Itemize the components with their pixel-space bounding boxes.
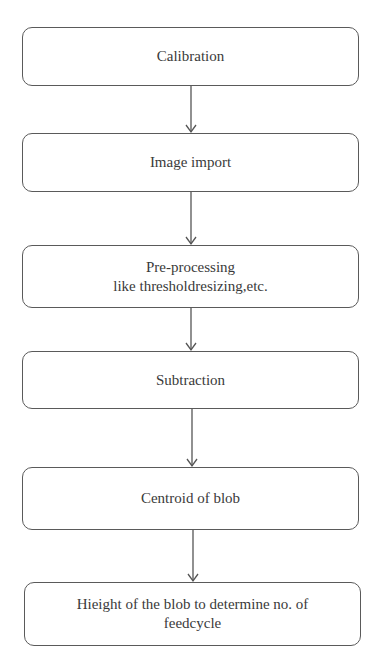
step-centroid-of-blob: Centroid of blob bbox=[22, 467, 359, 530]
step-subtraction: Subtraction bbox=[22, 351, 359, 409]
step-label: Image import bbox=[150, 153, 231, 172]
step-pre-processing: Pre-processing like thresholdresizing,et… bbox=[22, 245, 359, 308]
step-label: Centroid of blob bbox=[141, 489, 240, 508]
step-label-line-2: feedcycle bbox=[164, 614, 221, 633]
step-label: Subtraction bbox=[156, 371, 225, 390]
arrow-pre-processing-to-subtraction bbox=[186, 308, 196, 350]
arrow-subtraction-to-centroid bbox=[187, 409, 197, 466]
arrow-image-import-to-pre-processing bbox=[186, 192, 196, 244]
step-label-line-2: like thresholdresizing,etc. bbox=[113, 277, 268, 296]
flow-arrows bbox=[0, 0, 385, 670]
step-calibration: Calibration bbox=[22, 27, 359, 86]
arrow-calibration-to-image-import bbox=[186, 86, 196, 132]
step-label-line-1: Hieight of the blob to determine no. of bbox=[77, 595, 309, 614]
step-label: Calibration bbox=[157, 47, 225, 66]
step-height-of-blob: Hieight of the blob to determine no. of … bbox=[24, 582, 361, 646]
arrow-centroid-to-height bbox=[188, 530, 198, 581]
step-image-import: Image import bbox=[22, 133, 359, 192]
step-label-line-1: Pre-processing bbox=[146, 258, 235, 277]
